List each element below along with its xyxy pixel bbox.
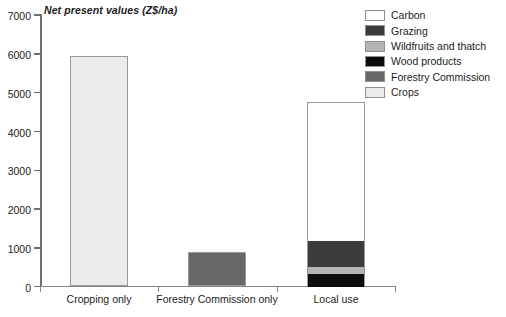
legend-item-forestry-commission[interactable]: Forestry Commission xyxy=(365,69,490,84)
y-tick-label-0: 0 xyxy=(25,282,34,294)
legend-label-grazing: Grazing xyxy=(391,26,428,37)
chart-legend: Carbon Grazing Wildfruits and thatch Woo… xyxy=(365,8,490,100)
x-tick-1 xyxy=(158,286,159,292)
y-tick-label-5000: 5000 xyxy=(8,88,34,100)
y-tick-label-2000: 2000 xyxy=(8,204,34,216)
y-tick-label-3000: 3000 xyxy=(8,165,34,177)
legend-swatch-forestry-commission xyxy=(365,71,385,82)
legend-item-wood-products[interactable]: Wood products xyxy=(365,54,490,69)
x-tick-right xyxy=(395,286,396,292)
legend-label-carbon: Carbon xyxy=(391,10,425,21)
y-axis-title: Net present values (Z$/ha) xyxy=(44,4,177,16)
legend-item-grazing[interactable]: Grazing xyxy=(365,23,490,38)
legend-swatch-wood-products xyxy=(365,56,385,67)
legend-label-crops: Crops xyxy=(391,87,419,98)
legend-swatch-grazing xyxy=(365,25,385,36)
legend-swatch-wildfruits-and-thatch xyxy=(365,41,385,52)
bar-forestry-commission-only[interactable] xyxy=(188,252,246,286)
x-tick-2 xyxy=(277,286,278,292)
y-tick-label-6000: 6000 xyxy=(8,49,34,61)
y-tick-6000: 6000 xyxy=(34,53,40,54)
legend-label-wood-products: Wood products xyxy=(391,56,461,67)
segment-wood-products[interactable] xyxy=(308,274,364,287)
y-tick-label-4000: 4000 xyxy=(8,127,34,139)
legend-item-carbon[interactable]: Carbon xyxy=(365,8,490,23)
y-tick-4000: 4000 xyxy=(34,131,40,132)
y-axis-line xyxy=(40,14,42,286)
y-tick-5000: 5000 xyxy=(34,92,40,93)
x-category-label-forestry-commission-only: Forestry Commission only xyxy=(156,293,277,305)
legend-item-crops[interactable]: Crops xyxy=(365,84,490,99)
bar-cropping-only[interactable] xyxy=(70,56,128,286)
legend-label-wildfruits-and-thatch: Wildfruits and thatch xyxy=(391,41,486,52)
legend-swatch-crops xyxy=(365,87,385,98)
legend-label-forestry-commission: Forestry Commission xyxy=(391,72,490,83)
y-tick-label-7000: 7000 xyxy=(8,10,34,22)
y-tick-label-1000: 1000 xyxy=(8,243,34,255)
segment-grazing[interactable] xyxy=(308,241,364,266)
y-tick-1000: 1000 xyxy=(34,247,40,248)
legend-swatch-carbon xyxy=(365,10,385,21)
chart-figure: Net present values (Z$/ha) 7000 6000 500… xyxy=(0,0,506,317)
y-tick-7000: 7000 xyxy=(34,14,40,15)
legend-item-wildfruits-and-thatch[interactable]: Wildfruits and thatch xyxy=(365,39,490,54)
y-tick-2000: 2000 xyxy=(34,208,40,209)
x-tick-left xyxy=(40,286,41,292)
segment-carbon[interactable] xyxy=(308,103,364,242)
x-category-label-local-use: Local use xyxy=(314,293,359,305)
bar-local-use[interactable] xyxy=(307,102,365,286)
y-tick-3000: 3000 xyxy=(34,170,40,171)
x-category-label-cropping-only: Cropping only xyxy=(67,293,132,305)
segment-wildfruits-and-thatch[interactable] xyxy=(308,267,364,274)
